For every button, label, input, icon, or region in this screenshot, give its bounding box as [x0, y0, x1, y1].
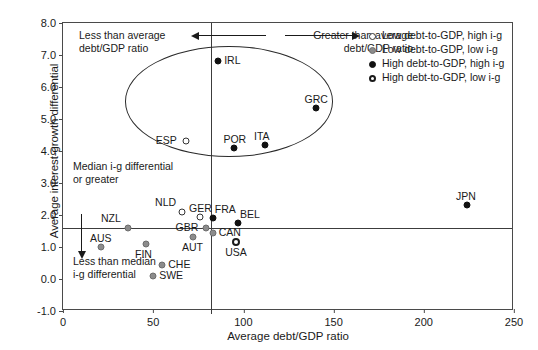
annotation-less-than-average: Less than average debt/GDP ratio — [79, 29, 165, 56]
y-tick-label: 7.0 — [41, 49, 63, 61]
legend-marker-icon — [369, 47, 376, 54]
point-label-ita: ITA — [254, 130, 270, 142]
data-point-esp[interactable] — [182, 138, 189, 145]
annotation-less-than-median: Less than median i-g differential — [73, 255, 156, 282]
y-tick-label: 2.0 — [41, 209, 63, 221]
x-tick-label: 0 — [60, 309, 66, 328]
point-label-gbr: GBR — [176, 221, 199, 233]
point-label-usa: USA — [225, 246, 247, 258]
annotation-line-1: Less than median — [73, 255, 156, 268]
data-point-grc[interactable] — [312, 104, 319, 111]
point-label-swe: SWE — [159, 269, 183, 281]
y-tick-label: 1.0 — [41, 241, 63, 253]
data-point-che[interactable] — [159, 261, 166, 268]
y-tick-label: 0.0 — [41, 273, 63, 285]
legend-label: High debt-to-GDP, low i-g — [382, 70, 500, 85]
legend-item-3[interactable]: High debt-to-GDP, low i-g — [369, 71, 504, 85]
y-tick-label: 5.0 — [41, 113, 63, 125]
point-label-por: POR — [223, 133, 246, 145]
data-point-aut[interactable] — [189, 234, 196, 241]
annotation-line-2: or greater — [73, 173, 173, 186]
y-tick-label: 8.0 — [41, 17, 63, 29]
legend-item-1[interactable]: Low debt-to-GDP, low i-g — [369, 43, 504, 57]
data-point-nzl[interactable] — [124, 224, 131, 231]
y-tick-label: 3.0 — [41, 177, 63, 189]
y-tick-label: 6.0 — [41, 81, 63, 93]
arrow-down-icon — [81, 214, 82, 252]
point-label-ger: GER — [189, 202, 212, 214]
data-point-aus[interactable] — [97, 244, 104, 251]
data-point-usa[interactable] — [232, 238, 240, 246]
x-axis-title: Average debt/GDP ratio — [62, 330, 514, 342]
point-label-jpn: JPN — [456, 190, 476, 202]
point-label-grc: GRC — [305, 93, 328, 105]
data-point-irl[interactable] — [215, 58, 222, 65]
annotation-median-or-greater: Median i-g differential or greater — [73, 160, 173, 187]
data-point-ita[interactable] — [262, 141, 269, 148]
data-point-fra[interactable] — [209, 215, 216, 222]
annotation-line-1: Median i-g differential — [73, 160, 173, 173]
annotation-line-1: Less than average — [79, 29, 165, 42]
point-label-bel: BEL — [240, 208, 260, 220]
data-point-por[interactable] — [231, 144, 238, 151]
data-point-fin[interactable] — [142, 240, 149, 247]
legend-marker-icon — [369, 61, 376, 68]
legend-label: High debt-to-GDP, high i-g — [382, 56, 504, 71]
x-tick-label: 150 — [324, 309, 342, 328]
point-label-aus: AUS — [90, 232, 112, 244]
point-label-nzl: NZL — [101, 212, 121, 224]
data-point-bel[interactable] — [234, 220, 241, 227]
data-point-can[interactable] — [209, 229, 216, 236]
x-tick-label: 200 — [415, 309, 433, 328]
legend-item-0[interactable]: Low debt-to-GDP, high i-g — [369, 29, 504, 43]
x-tick-label: 50 — [147, 309, 159, 328]
point-label-fra: FRA — [215, 203, 236, 215]
data-point-ger[interactable] — [197, 213, 204, 220]
data-point-nld[interactable] — [179, 208, 186, 215]
arrow-right-icon — [285, 35, 353, 36]
legend-marker-icon — [369, 75, 376, 82]
annotation-line-2: debt/GDP ratio — [79, 42, 165, 55]
chart-legend: Low debt-to-GDP, high i-gLow debt-to-GDP… — [369, 29, 504, 85]
legend-label: Low debt-to-GDP, high i-g — [382, 28, 502, 43]
point-label-nld: NLD — [155, 196, 176, 208]
point-label-esp: ESP — [156, 134, 177, 146]
point-label-aut: AUT — [182, 241, 203, 253]
legend-label: Low debt-to-GDP, low i-g — [382, 42, 498, 57]
x-tick-label: 250 — [505, 309, 523, 328]
point-label-irl: IRL — [224, 54, 240, 66]
scatter-chart-figure: Average interest-growth differential Ave… — [0, 0, 538, 350]
data-point-jpn[interactable] — [464, 202, 471, 209]
plot-area: -1.00.01.02.03.04.05.06.07.08.0 05010015… — [62, 22, 513, 310]
point-label-che: CHE — [168, 258, 190, 270]
annotation-line-2: i-g differential — [73, 268, 156, 281]
point-label-can: CAN — [219, 226, 241, 238]
y-tick-label: 4.0 — [41, 145, 63, 157]
legend-item-2[interactable]: High debt-to-GDP, high i-g — [369, 57, 504, 71]
arrow-left-icon — [198, 35, 266, 36]
legend-marker-icon — [369, 33, 376, 40]
x-tick-label: 100 — [234, 309, 252, 328]
data-point-gbr[interactable] — [202, 224, 209, 231]
